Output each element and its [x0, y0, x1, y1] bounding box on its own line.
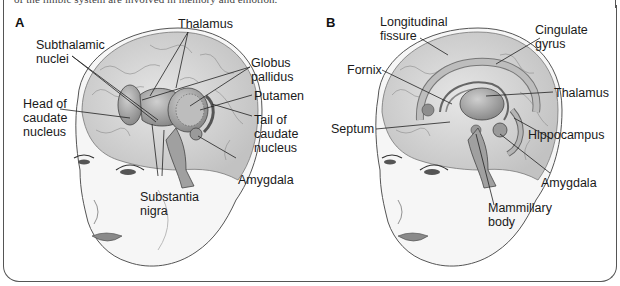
label-thalamus-b: Thalamus [554, 86, 609, 100]
label-hippocampus: Hippocampus [528, 128, 604, 142]
label-substantia-nigra: Substantia nigra [140, 190, 199, 218]
label-amygdala-a: Amygdala [238, 173, 294, 187]
label-amygdala-b: Amygdala [541, 176, 597, 190]
label-thalamus-a: Thalamus [178, 17, 233, 31]
label-mammillary-body: Mammillary body [488, 201, 552, 229]
panel-letter-a: A [15, 15, 24, 30]
label-tail-of-caudate: Tail of caudate nucleus [254, 113, 298, 155]
label-septum: Septum [331, 122, 374, 136]
label-globus-pallidus: Globus pallidus [251, 56, 293, 84]
label-fornix: Fornix [347, 63, 382, 77]
label-putamen: Putamen [254, 89, 304, 103]
label-subthalamic-nuclei: Subthalamic nuclei [36, 38, 105, 66]
label-head-of-caudate: Head of caudate nucleus [23, 97, 67, 139]
label-cingulate-gyrus: Cingulate gyrus [535, 23, 588, 51]
panel-letter-b: B [326, 15, 335, 30]
label-longitudinal-fissure: Longitudinal fissure [380, 15, 447, 43]
head-illustration-b [376, 28, 562, 266]
